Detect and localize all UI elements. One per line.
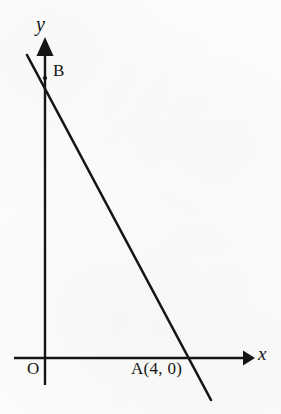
point-b-marker [43,76,47,80]
point-b-label: B [53,62,64,79]
plot-canvas [0,0,281,414]
x-axis-arrowhead-icon [243,351,255,366]
origin-label: O [27,360,39,377]
coordinate-plane-figure: y x B O A(4, 0) [0,0,281,414]
x-axis-label: x [258,344,266,363]
point-a-label: A(4, 0) [131,360,182,377]
line-segment-AB [27,55,211,400]
y-axis-arrowhead-icon [37,37,54,56]
y-axis-label: y [36,14,45,34]
